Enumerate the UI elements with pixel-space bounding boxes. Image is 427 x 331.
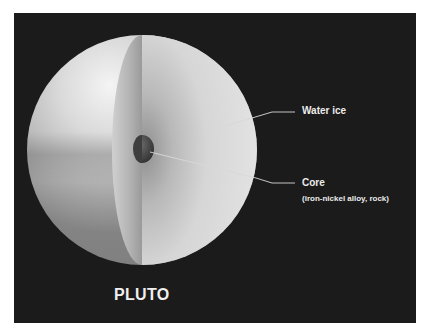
water-ice-layer bbox=[142, 30, 267, 270]
diagram-title: PLUTO bbox=[114, 287, 169, 303]
core-composition-label: (iron-nickel alloy, rock) bbox=[302, 195, 389, 203]
pluto-cutaway-illustration bbox=[0, 0, 427, 331]
water-ice-label: Water ice bbox=[302, 106, 346, 116]
core-label: Core bbox=[302, 178, 325, 188]
